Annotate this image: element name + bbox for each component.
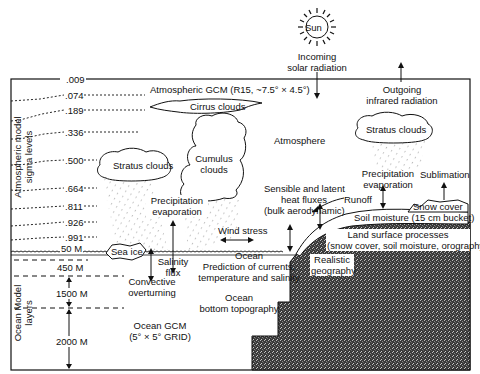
sea-ice-label: Sea ice — [111, 246, 143, 257]
stratus-clouds-right-label: Stratus clouds — [366, 124, 426, 135]
sigma-level: .336 — [65, 127, 84, 138]
sigma-level: .500 — [65, 155, 84, 166]
soil-moisture-label: Soil moisture (15 cm bucket) — [354, 212, 474, 223]
sigma-level: .664 — [65, 183, 84, 194]
ocean-layers-axis-label: Ocean Model layers — [12, 283, 34, 343]
salinity-flux-label: Salinity flux — [155, 256, 191, 278]
precip-evap-right-label: Precipitation evaporation — [358, 168, 418, 190]
ocean-bottom-topography-label: Ocean bottom topography — [194, 292, 284, 314]
precip-evap-left-label: Precipitation evaporation — [146, 195, 208, 217]
sun-label: Sun — [305, 22, 322, 33]
atmosphere-label: Atmosphere — [274, 135, 325, 146]
heat-fluxes-label: Sensible and latent heat fluxes (bulk ae… — [264, 183, 344, 216]
outgoing-arrow-icon — [398, 62, 404, 68]
realistic-geography-label: Realistic geography — [310, 254, 354, 276]
sigma-level: .074 — [65, 90, 84, 101]
ocean-prediction-label: Ocean Prediction of currents, temperatur… — [194, 250, 304, 283]
incoming-radiation-label: Incoming solar radiation — [287, 51, 347, 73]
sigma-level: .009 — [65, 74, 86, 85]
wind-stress-label: Wind stress — [218, 225, 268, 236]
convective-overturning-label: Convective overturning — [126, 276, 178, 298]
runoff-label: Runoff — [344, 194, 372, 205]
sigma-level: .926 — [65, 217, 84, 228]
sigma-level: .189 — [65, 105, 84, 116]
sigma-level: .811 — [65, 201, 83, 212]
depth-label: 450 M — [57, 262, 83, 273]
depth-label: 1500 M — [55, 288, 89, 299]
snow-cover-label: Snow cover — [413, 201, 463, 212]
sigma-level: .991 — [65, 232, 84, 243]
depth-label: 2000 M — [55, 336, 89, 347]
ocean-gcm-label: Ocean GCM (5° × 5° GRID) — [128, 320, 192, 342]
outgoing-radiation-label: Outgoing infrared radiation — [362, 84, 442, 106]
depth-label: 50 M — [60, 243, 83, 254]
sublimation-label: Sublimation — [420, 169, 470, 180]
cirrus-clouds-label: Cirrus clouds — [190, 101, 245, 112]
incoming-arrow-icon — [314, 93, 320, 99]
land-surface-label: Land surface processes (snow cover, soil… — [326, 229, 470, 251]
sigma-levels-axis-label: Atmospheric model sigma levels — [12, 102, 34, 212]
atmospheric-gcm-label: Atmospheric GCM (R15, ~7.5° × 4.5°) — [150, 84, 310, 95]
cumulus-clouds-label: Cumulus clouds — [194, 153, 234, 175]
stratus-clouds-left-label: Stratus clouds — [113, 160, 173, 171]
